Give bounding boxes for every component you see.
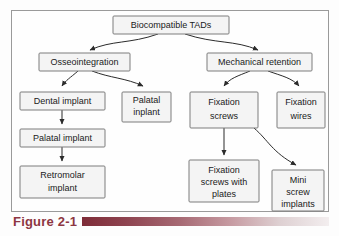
edge-mechanical-retention-to-fixation-wires [268,71,299,86]
node-label-line2: screws [210,111,239,121]
node-label-line1: Fixation [208,97,240,107]
flowchart: Biocompatible TADs Osseointegration Mech… [0,0,339,236]
node-label-line1: Mini [290,175,307,185]
node-label: Biocompatible TADs [131,20,212,30]
node-label-line2: inplant [133,107,160,117]
edge-fixation-screws-to-mini-screw-implants [254,128,296,165]
figure-caption-label: Figure 2-1 [13,214,77,229]
node-label: Dental implant [34,96,92,106]
node-label-line3: implants [281,199,315,209]
node-biocompatible-tads[interactable]: Biocompatible TADs [113,16,229,34]
node-retromolar-implant[interactable]: Retromolar implant [20,166,105,198]
node-osseointegration[interactable]: Osseointegration [39,53,130,71]
node-label: Osseointegration [50,57,118,67]
node-fixation-wires[interactable]: Fixation wires [277,92,325,128]
node-label-line1: Fixation [208,165,240,175]
node-mini-screw-implants[interactable]: Mini screw implants [272,170,324,211]
node-label-line1: Retromolar [40,170,85,180]
figure-caption-row: Figure 2-1 [0,214,339,236]
node-label-line2: screw [286,187,310,197]
node-label-line2: implant [48,183,78,193]
edge-mechanical-retention-to-fixation-screws [224,71,250,86]
edge-osseointegration-to-dental-implant [62,71,78,86]
figure-container: Biocompatible TADs Osseointegration Mech… [0,0,339,236]
edge-root-to-osseointegration [90,34,158,50]
node-label-line1: Fixation [285,97,317,107]
edge-osseointegration-to-palatal-inplant [92,71,143,86]
node-label-line3: plates [212,189,237,199]
edge-root-to-mechanical-retention [185,34,258,50]
node-mechanical-retention[interactable]: Mechanical retention [207,53,312,71]
node-label-line2: wires [289,111,312,121]
node-label-line1: Palatal [133,95,161,105]
node-label-line2: screws with [201,177,248,187]
node-fixation-screws[interactable]: Fixation screws [190,92,258,128]
figure-caption-gradient-bar [82,217,329,226]
node-palatal-implant[interactable]: Palatal implant [20,129,105,147]
node-fixation-screws-with-plates[interactable]: Fixation screws with plates [189,160,259,202]
node-palatal-inplant[interactable]: Palatal inplant [122,92,171,122]
node-dental-implant[interactable]: Dental implant [20,92,105,110]
node-label: Palatal implant [33,133,93,143]
node-label: Mechanical retention [218,57,301,67]
